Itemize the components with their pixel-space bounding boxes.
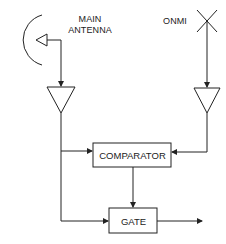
- main-antenna-label-line2: ANTENNA: [68, 25, 112, 36]
- feed-horn-icon: [36, 34, 47, 46]
- main-antenna-label: MAIN ANTENNA: [68, 14, 112, 36]
- main-feed-line: [47, 40, 61, 86]
- omni-antenna-label: ONMI: [160, 16, 190, 27]
- comparator-label: COMPARATOR: [93, 143, 172, 168]
- omni-amplifier-icon: [194, 88, 220, 113]
- omni-amp-to-comparator-line: [172, 113, 207, 152]
- main-antenna-label-line1: MAIN: [68, 14, 112, 25]
- main-amp-to-comparator-line: [61, 113, 92, 151]
- main-amplifier-icon: [47, 87, 75, 113]
- main-antenna-icon: [23, 15, 47, 65]
- gate-label: GATE: [109, 208, 158, 234]
